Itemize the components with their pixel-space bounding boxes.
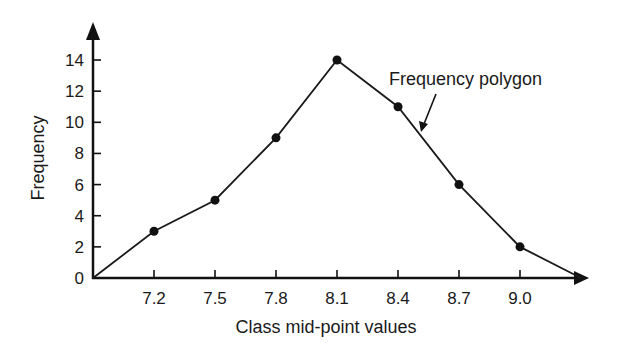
- x-tick-label: 8.4: [386, 289, 410, 308]
- x-ticks: 7.27.57.88.18.48.79.0: [142, 270, 532, 308]
- annotation-label: Frequency polygon: [389, 69, 542, 89]
- chart-canvas: 02468101214 7.27.57.88.18.48.79.0 Class …: [0, 0, 621, 354]
- x-tick-label: 7.8: [264, 289, 288, 308]
- data-point-marker: [516, 242, 525, 251]
- annotation-arrow-icon: [419, 94, 436, 132]
- y-tick-label: 0: [75, 269, 84, 288]
- y-tick-label: 2: [75, 238, 84, 257]
- data-point-marker: [150, 227, 159, 236]
- x-tick-label: 9.0: [508, 289, 532, 308]
- data-point-marker: [272, 133, 281, 142]
- x-axis-title: Class mid-point values: [235, 317, 416, 337]
- data-point-marker: [211, 196, 220, 205]
- x-tick-label: 8.7: [447, 289, 471, 308]
- frequency-polygon-chart: 02468101214 7.27.57.88.18.48.79.0 Class …: [0, 0, 621, 354]
- data-point-marker: [333, 56, 342, 65]
- y-tick-label: 8: [75, 144, 84, 163]
- y-axis-arrow-icon: [86, 22, 100, 40]
- y-tick-label: 12: [65, 82, 84, 101]
- y-tick-label: 14: [65, 51, 84, 70]
- data-point-marker: [394, 102, 403, 111]
- x-tick-label: 7.5: [203, 289, 227, 308]
- x-tick-label: 7.2: [142, 289, 166, 308]
- y-axis-title: Frequency: [28, 115, 48, 200]
- y-ticks: 02468101214: [65, 51, 101, 288]
- x-axis-arrow-icon: [574, 271, 589, 285]
- x-axis: [92, 271, 589, 285]
- y-tick-label: 6: [75, 176, 84, 195]
- data-point-marker: [455, 180, 464, 189]
- x-tick-label: 8.1: [325, 289, 349, 308]
- frequency-polygon-line: [93, 60, 581, 278]
- y-tick-label: 4: [75, 207, 84, 226]
- y-tick-label: 10: [65, 113, 84, 132]
